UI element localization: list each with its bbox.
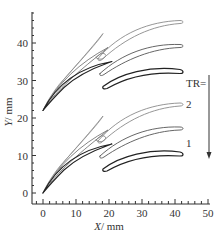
y-tick-30: 30 (17, 75, 29, 87)
upper-blade-hook (96, 53, 106, 59)
y-tick-0: 0 (23, 187, 29, 199)
x-tick-30: 30 (137, 207, 149, 219)
tr-label: TR= (186, 77, 206, 89)
y-tick-40: 40 (17, 37, 29, 49)
y-ticks (32, 13, 36, 193)
x-axis-title: X/ mm (93, 220, 124, 232)
blade-profile-figure: 0 10 20 30 40 0 10 20 30 40 50 X/ mm Y/ … (0, 0, 218, 237)
x-tick-50: 50 (203, 207, 215, 219)
y-tick-10: 10 (17, 150, 29, 162)
x-ticks (36, 199, 208, 204)
upper-left-blade-dark (43, 62, 112, 111)
x-tick-labels: 0 10 20 30 40 50 (40, 207, 214, 219)
lower-right-blade-TR2 (98, 103, 183, 143)
x-tick-10: 10 (71, 207, 83, 219)
tr-value-2: 2 (186, 98, 192, 110)
tr-annotation: TR= 2 1 (186, 75, 212, 159)
arrow-down-icon (207, 152, 212, 159)
lower-left-blade-dark (43, 144, 112, 193)
tr-value-1: 1 (186, 137, 192, 149)
y-tick-20: 20 (17, 112, 29, 124)
upper-cascade (43, 21, 183, 111)
x-tick-0: 0 (40, 207, 46, 219)
lower-blade-hook (96, 136, 106, 142)
y-axis-title: Y/ mm (2, 97, 14, 126)
upper-right-blade-light (98, 21, 183, 61)
x-tick-40: 40 (170, 207, 182, 219)
x-tick-20: 20 (104, 207, 116, 219)
y-tick-labels: 0 10 20 30 40 (17, 37, 29, 199)
lower-right-blade-TR1 (103, 151, 183, 171)
upper-right-blade-dark (103, 68, 183, 88)
lower-cascade (43, 103, 183, 193)
